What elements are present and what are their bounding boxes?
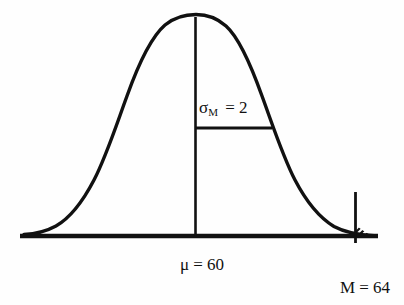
sigma-value: = 2 [225,98,247,117]
observed-value-label: M = 64 [340,279,390,296]
bell-curve-path [24,15,374,236]
sigma-symbol: σ [199,98,208,117]
standard-error-label: σM= 2 [199,99,248,118]
normal-distribution-figure: σM= 2 μ = 60 M = 64 [0,0,404,305]
sigma-subscript: M [208,106,218,118]
mean-label: μ = 60 [180,256,224,273]
